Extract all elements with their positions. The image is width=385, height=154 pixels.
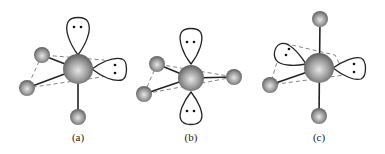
electron-dot — [114, 72, 117, 75]
electron-dot — [288, 48, 291, 51]
ligand-atom — [226, 69, 242, 85]
central-atom — [304, 53, 334, 83]
panel-label-b: (b) — [185, 131, 198, 143]
ligand-atom — [262, 77, 278, 93]
central-atom — [178, 65, 204, 91]
electron-dot — [193, 110, 196, 113]
central-atom — [63, 54, 93, 84]
lone-pair-lobe — [274, 44, 306, 66]
electron-dot — [353, 71, 356, 74]
electron-dot — [114, 64, 117, 67]
electron-dot — [285, 54, 288, 57]
panel-label-a: (a) — [72, 131, 84, 143]
electron-dot — [193, 41, 196, 44]
lone-pair-lobe — [180, 92, 202, 125]
electron-dot — [73, 26, 76, 29]
lone-pair-lobe — [180, 29, 202, 65]
ligand-atom — [19, 80, 35, 96]
electron-dot — [186, 110, 189, 113]
lone-pair-lobe — [67, 18, 90, 56]
ligand-atom — [149, 56, 165, 72]
lone-pair-lobe — [92, 59, 127, 81]
ligand-atom — [311, 108, 327, 124]
ligand-atom — [312, 11, 328, 27]
ligand-atom — [136, 86, 152, 102]
ligand-atom — [34, 47, 50, 63]
electron-dot — [80, 26, 83, 29]
panel-label-c: (c) — [313, 131, 325, 143]
panel-a — [19, 18, 127, 126]
panel-b — [136, 29, 242, 125]
electron-dot — [186, 41, 189, 44]
electron-dot — [353, 63, 356, 66]
ligand-atom — [70, 109, 86, 125]
panel-c — [262, 11, 366, 124]
